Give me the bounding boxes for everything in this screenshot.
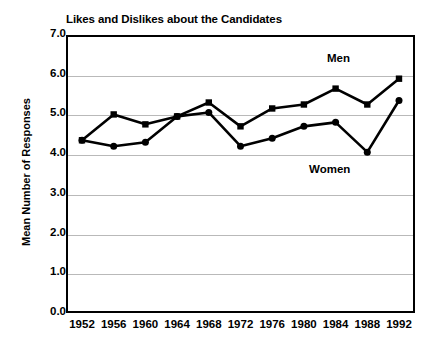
data-point-marker	[237, 123, 243, 129]
chart-container: Likes and Dislikes about the Candidates …	[0, 0, 443, 351]
data-point-marker	[364, 101, 370, 107]
data-point-marker	[237, 143, 244, 150]
data-point-marker	[206, 99, 212, 105]
data-point-marker	[174, 113, 181, 120]
data-point-marker	[396, 75, 402, 81]
data-point-marker	[205, 109, 212, 116]
data-point-marker	[364, 149, 371, 156]
data-point-marker	[300, 123, 307, 130]
data-point-marker	[332, 85, 338, 91]
data-point-marker	[110, 143, 117, 150]
data-point-marker	[269, 135, 276, 142]
data-point-marker	[269, 105, 275, 111]
data-point-marker	[301, 101, 307, 107]
data-point-marker	[396, 97, 403, 104]
data-point-marker	[142, 121, 148, 127]
series-line	[82, 79, 399, 141]
data-point-marker	[332, 119, 339, 126]
data-point-marker	[142, 139, 149, 146]
series-label-men: Men	[327, 52, 350, 64]
series-men	[79, 75, 402, 143]
series-label-women: Women	[309, 163, 350, 175]
data-point-marker	[79, 137, 86, 144]
data-point-marker	[111, 111, 117, 117]
series-plot-layer	[0, 0, 443, 351]
